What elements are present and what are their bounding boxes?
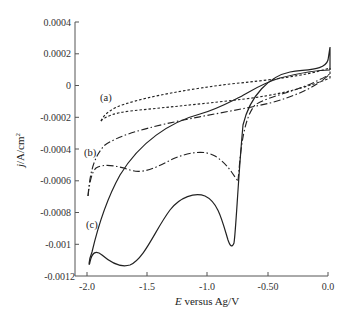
y-tick-label: -0.0004 <box>40 144 71 155</box>
x-axis <box>75 272 328 276</box>
x-tick-label: -1.5 <box>139 281 155 292</box>
y-tick-label: -0.0006 <box>40 175 71 186</box>
y-tick-label: -0.0012 <box>44 271 75 282</box>
label-c: (c) <box>86 219 98 231</box>
x-tick-label: 0.0 <box>322 281 335 292</box>
label-b: (b) <box>84 147 97 159</box>
y-tick-labels: 0.0004 0.0002 0 -0.0002 -0.0004 -0.0006 … <box>40 17 75 282</box>
chart: 0.0004 0.0002 0 -0.0002 -0.0004 -0.0006 … <box>0 0 351 321</box>
label-a: (a) <box>100 92 112 104</box>
y-tick-label: -0.0008 <box>40 207 71 218</box>
y-tick-label: 0 <box>66 80 71 91</box>
x-axis-title: E versus Ag/V <box>174 295 239 307</box>
x-axis-title-text: versus Ag/V <box>182 295 240 307</box>
series-b <box>88 74 330 196</box>
y-tick-label: 0.0004 <box>44 17 72 28</box>
x-tick-label: -1.0 <box>199 281 215 292</box>
x-tick-label: -2.0 <box>79 281 95 292</box>
y-tick-label: -0.0002 <box>40 112 71 123</box>
y-axis-title-sup: 2 <box>14 132 22 136</box>
y-tick-label: 0.0002 <box>44 48 72 59</box>
y-axis-title: j/A/cm2 <box>14 132 26 169</box>
y-tick-label: -0.001 <box>45 239 71 250</box>
series-c <box>89 47 330 266</box>
y-axis-title-text: /A/cm <box>14 136 26 164</box>
x-tick-label: -0.50 <box>258 281 279 292</box>
x-tick-labels: -2.0 -1.5 -1.0 -0.50 0.0 <box>79 281 334 292</box>
y-axis <box>75 22 79 276</box>
